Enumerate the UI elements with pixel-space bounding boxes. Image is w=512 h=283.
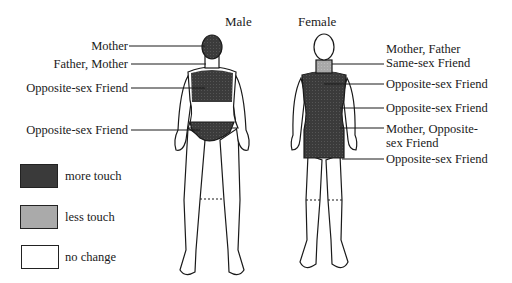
male-figure	[175, 35, 249, 275]
female-label-neck-line1: Mother, Father	[386, 42, 460, 56]
female-label-neck-line2: Same-sex Friend	[386, 56, 470, 70]
legend-swatch-no-change	[21, 245, 59, 269]
male-label-head: Mother	[91, 39, 128, 53]
female-figure	[291, 34, 357, 268]
legend-label-more-touch: more touch	[65, 169, 122, 183]
legend-label-less-touch: less touch	[65, 210, 115, 224]
female-label-chest: Opposite-sex Friend	[386, 77, 488, 91]
female-label-abdomen: Opposite-sex Friend	[386, 101, 488, 115]
male-label-chest: Opposite-sex Friend	[26, 81, 128, 95]
legend-swatch-more-touch	[20, 164, 58, 188]
legend-swatch-less-touch	[20, 205, 58, 229]
male-label-pelvis: Opposite-sex Friend	[26, 123, 128, 137]
female-label-thighs: Opposite-sex Friend	[386, 152, 488, 166]
female-label-hips-line2: sex Friend	[386, 136, 438, 150]
female-label-hips-line1: Mother, Opposite-	[386, 122, 478, 136]
legend-label-no-change: no change	[65, 250, 116, 264]
male-label-neck: Father, Mother	[54, 57, 128, 71]
